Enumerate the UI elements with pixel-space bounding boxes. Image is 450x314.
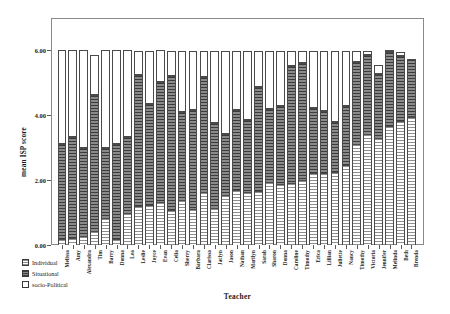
x-axis-tick-mark (160, 245, 161, 249)
bar-segment-sociopolitical (352, 51, 361, 62)
x-axis-tick-mark (346, 245, 347, 249)
bar-segment-individual (232, 190, 241, 245)
x-axis-category-label: Timothy (304, 250, 310, 270)
bar-segment-sociopolitical (309, 51, 318, 107)
x-axis-tick-mark (62, 245, 63, 249)
x-axis-category-label: Donna (119, 250, 125, 265)
y-axis-tick-label: 2.00 (22, 177, 46, 184)
bar-juliette-25 (331, 51, 340, 245)
bar-segment-situational (189, 110, 198, 209)
legend-label: Situational (32, 271, 59, 277)
bar-segment-situational (320, 111, 329, 173)
x-axis-tick-mark (215, 245, 216, 249)
bar-segment-individual (200, 192, 209, 245)
bar-victoria-28 (363, 51, 372, 245)
x-axis-category-labels: MelissaAmyAlexandraTimBarryDonnaLeaLesli… (51, 250, 424, 290)
bar-segment-individual (287, 183, 296, 245)
bar-segment-individual (123, 213, 132, 245)
bar-segment-individual (342, 165, 351, 245)
x-axis-tick-mark (193, 245, 194, 249)
bar-segment-sociopolitical (68, 50, 77, 137)
x-axis-category-label: Juliette (337, 250, 343, 267)
bar-segment-sociopolitical (178, 51, 187, 112)
x-axis-tick-mark (368, 245, 369, 249)
x-axis-tick-mark (313, 245, 314, 249)
bar-segment-situational (243, 120, 252, 192)
x-axis-tick-mark (280, 245, 281, 249)
chart-legend: IndividualSituationalsocio-Political (22, 258, 94, 291)
x-axis-category-label: Sharon (271, 250, 277, 267)
bar-segment-individual (68, 238, 77, 245)
bar-jason-15 (221, 51, 230, 245)
bar-segment-sociopolitical (123, 50, 132, 136)
bar-segment-sociopolitical (331, 51, 340, 122)
bar-segment-individual (385, 126, 394, 245)
x-axis-category-label: Lea (129, 250, 135, 259)
bar-segment-sociopolitical (265, 51, 274, 109)
bar-segment-situational (254, 87, 263, 190)
bar-segment-sociopolitical (79, 50, 88, 147)
x-axis-category-label: Donna (282, 250, 288, 265)
bar-segment-situational (374, 74, 383, 138)
bar-timothy-27 (352, 51, 361, 245)
bar-segment-individual (298, 180, 307, 246)
x-axis-tick-mark (204, 245, 205, 249)
x-axis-category-label: Sarah (261, 250, 267, 264)
bar-segment-situational (178, 112, 187, 200)
bar-segment-individual (167, 210, 176, 245)
bar-segment-individual (156, 202, 165, 245)
bar-segment-individual (396, 121, 405, 245)
bar-segment-sociopolitical (276, 51, 285, 106)
bar-segment-situational (167, 76, 176, 210)
legend-item-situational: Situational (22, 269, 94, 279)
bar-melissa-0 (58, 50, 67, 245)
x-axis-tick-mark (248, 245, 249, 249)
x-axis-category-label: Evan (162, 250, 168, 262)
stacked-bar-chart-figure: mean ISP score 0.002.004.006.00 MelissaA… (0, 0, 450, 314)
bar-segment-situational (276, 106, 285, 184)
bar-segment-sociopolitical (210, 51, 219, 123)
x-axis-category-label: Jaclyn (217, 250, 223, 265)
bar-barry-4 (101, 50, 110, 245)
bar-timothy-22 (298, 51, 307, 245)
bar-amy-1 (68, 50, 77, 245)
bar-segment-situational (287, 66, 296, 183)
x-axis-category-label: Melinda (392, 250, 398, 269)
x-axis-tick-mark (117, 245, 118, 249)
bar-segment-individual (101, 218, 110, 245)
bar-celia-10 (167, 51, 176, 245)
x-axis-category-label: Celia (173, 250, 179, 262)
bar-segment-situational (58, 144, 67, 239)
bar-clarissa-13 (200, 51, 209, 245)
bar-segment-individual (243, 192, 252, 245)
bar-segment-sociopolitical (221, 51, 230, 134)
bar-segment-individual (90, 231, 99, 245)
bar-segment-sociopolitical (374, 65, 383, 74)
bar-segment-sociopolitical (145, 51, 154, 104)
bar-segment-situational (221, 134, 230, 195)
bar-segment-situational (156, 82, 165, 202)
bar-segment-sociopolitical (287, 51, 296, 66)
bar-segment-sociopolitical (101, 50, 110, 147)
bar-segment-sociopolitical (232, 51, 241, 110)
x-axis-tick-mark (95, 245, 96, 249)
bar-donna-5 (112, 50, 121, 245)
bar-segment-individual (374, 138, 383, 245)
x-axis-tick-mark (411, 245, 412, 249)
x-axis-tick-mark (259, 245, 260, 249)
bar-segment-individual (276, 184, 285, 245)
x-axis-category-label: Joyce (151, 250, 157, 263)
bar-segment-sociopolitical (298, 51, 307, 63)
x-axis-category-label: Barry (108, 250, 114, 264)
bar-caroline-21 (287, 51, 296, 245)
bar-barbara-12 (189, 51, 198, 245)
bar-evan-9 (156, 50, 165, 245)
bar-segment-individual (407, 117, 416, 245)
bar-segment-situational (68, 137, 77, 238)
x-axis-tick-mark (379, 245, 380, 249)
bar-segment-individual (79, 236, 88, 245)
x-axis-category-label: Victoria (370, 250, 376, 269)
bar-segment-situational (309, 108, 318, 174)
x-axis-category-label: Brenda (413, 250, 419, 267)
bar-segment-individual (210, 208, 219, 245)
